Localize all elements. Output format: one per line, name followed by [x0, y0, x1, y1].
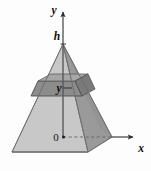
x-axis-label: x	[137, 142, 144, 154]
height-label: h	[54, 30, 60, 42]
origin-point	[62, 136, 65, 139]
y-axis-label: y	[49, 4, 57, 17]
origin-label: 0	[53, 131, 59, 143]
pyramid-diagram-svg: y h y 0 x	[0, 0, 151, 171]
pyramid-figure: y h y 0 x	[0, 0, 151, 171]
slab-height-label: y	[54, 82, 62, 95]
pyramid-faces-group	[12, 44, 112, 152]
